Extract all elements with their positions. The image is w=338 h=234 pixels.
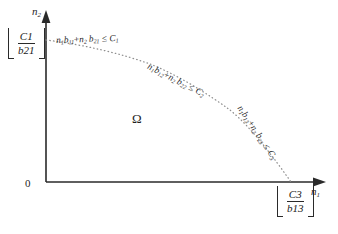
floor-bracket-right-icon [308,186,314,217]
floor-bracket-right-icon [39,28,45,59]
region-symbol: Ω [132,112,142,125]
fraction-denominator: b13 [285,202,306,214]
x-intercept-value: C3 b13 [277,186,314,217]
y-axis-arrowhead [42,10,51,23]
y-axis-label: n2 [32,6,41,19]
fraction-denominator: b21 [16,44,37,56]
boundary-curve [46,40,291,182]
origin-label: 0 [25,178,31,189]
fraction-numerator: C3 [287,189,304,202]
constraint-label-1: n1b11+n2 b21 ≤ C1 [56,34,119,47]
fraction-numerator: C1 [18,31,35,44]
y-intercept-value: C1 b21 [8,28,45,59]
fraction-c3-b13: C3 b13 [283,189,308,215]
fraction-c1-b21: C1 b21 [14,31,39,57]
feasible-region-diagram: n2 n1 0 C1 b21 C3 b13 n1b11+n2 b21 ≤ C1 … [0,0,338,234]
